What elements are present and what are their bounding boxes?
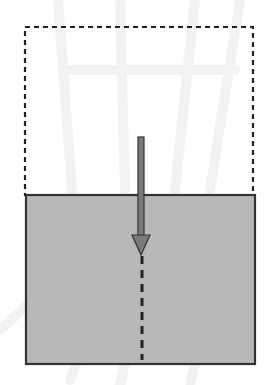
arrow-shaft <box>138 137 144 236</box>
displacement-diagram <box>0 0 280 385</box>
